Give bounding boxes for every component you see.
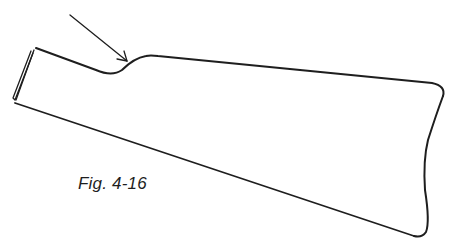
- arrow-icon: [70, 15, 127, 61]
- stock-diagram: [0, 0, 459, 252]
- tenon-inner: [16, 50, 34, 100]
- tenon-outer: [13, 51, 33, 100]
- stock-top-line: [36, 48, 444, 96]
- figure-caption: Fig. 4-16: [78, 174, 147, 194]
- stock-butt-line: [414, 96, 443, 237]
- stock-bottom-line: [15, 103, 414, 236]
